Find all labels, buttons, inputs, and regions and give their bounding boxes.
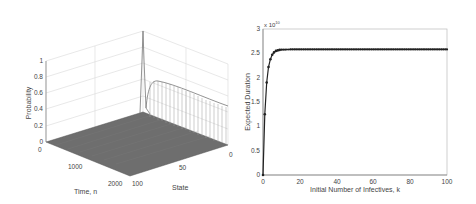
- z-tick-labels: 1 0.8 0.6 0.4 0.2 0: [34, 57, 43, 145]
- data-marker: [365, 48, 367, 50]
- data-marker: [323, 48, 325, 50]
- svg-text:1: 1: [39, 57, 43, 64]
- svg-text:2: 2: [256, 74, 260, 81]
- svg-text:20: 20: [296, 178, 304, 185]
- y-tick-labels: 0 0.5 1 1.5 2 2.5 3: [251, 25, 260, 178]
- svg-text:1.5: 1.5: [251, 98, 260, 105]
- svg-text:100: 100: [442, 178, 453, 185]
- data-marker: [328, 48, 330, 50]
- x-axis-label: Initial Number of Infectives, k: [310, 186, 400, 193]
- y-axis-label: Expected Duration: [244, 73, 252, 131]
- svg-text:0.5: 0.5: [251, 147, 260, 154]
- data-marker: [265, 81, 268, 84]
- data-marker: [442, 48, 444, 50]
- plot-area: [263, 29, 447, 175]
- data-marker: [411, 48, 413, 50]
- line-plot-panel: 0 0.5 1 1.5 2 2.5 3 x 1010 0 20 40 60 80…: [240, 0, 476, 204]
- svg-text:1: 1: [256, 122, 260, 129]
- surface-plot: 1 0.8 0.6 0.4 0.2 0 Probability 0 1000 2…: [0, 0, 240, 204]
- svg-text:60: 60: [369, 178, 377, 185]
- data-marker: [264, 113, 267, 116]
- line-plot: 0 0.5 1 1.5 2 2.5 3 x 1010 0 20 40 60 80…: [240, 0, 476, 204]
- data-marker: [267, 66, 270, 69]
- data-marker: [429, 48, 431, 50]
- data-marker: [319, 48, 321, 50]
- svg-text:3: 3: [256, 25, 260, 32]
- data-marker: [271, 54, 274, 57]
- svg-text:0: 0: [39, 138, 43, 145]
- data-marker: [332, 48, 334, 50]
- data-marker: [369, 48, 371, 50]
- data-marker: [387, 48, 389, 50]
- data-marker: [433, 48, 435, 50]
- svg-text:0: 0: [261, 178, 265, 185]
- data-marker: [420, 48, 422, 50]
- state-axis-label: State: [172, 184, 188, 191]
- svg-text:0.8: 0.8: [34, 73, 43, 80]
- svg-text:0: 0: [256, 171, 260, 178]
- svg-text:80: 80: [406, 178, 414, 185]
- data-marker: [359, 48, 361, 50]
- data-marker: [295, 48, 297, 50]
- data-marker: [374, 48, 376, 50]
- data-marker: [341, 48, 343, 50]
- data-marker: [439, 48, 441, 50]
- data-marker: [313, 48, 315, 50]
- data-marker: [269, 58, 272, 61]
- svg-text:0: 0: [38, 146, 42, 153]
- data-marker: [301, 48, 303, 50]
- y-multiplier: x 1010: [264, 20, 281, 28]
- data-marker: [405, 48, 407, 50]
- data-marker: [393, 48, 395, 50]
- data-marker: [262, 174, 265, 177]
- svg-text:50: 50: [179, 164, 187, 171]
- data-marker: [337, 48, 339, 50]
- initial-spike: [140, 31, 150, 114]
- svg-text:0.6: 0.6: [34, 89, 43, 96]
- data-marker: [282, 49, 284, 51]
- svg-text:0.2: 0.2: [34, 122, 43, 129]
- data-marker: [347, 48, 349, 50]
- svg-text:2000: 2000: [108, 180, 123, 187]
- data-marker: [291, 48, 293, 50]
- svg-text:0.4: 0.4: [34, 105, 43, 112]
- svg-text:40: 40: [333, 178, 341, 185]
- svg-text:100: 100: [132, 180, 143, 187]
- data-marker: [286, 48, 288, 50]
- data-marker: [402, 48, 404, 50]
- data-marker: [350, 48, 352, 50]
- svg-text:0: 0: [229, 151, 233, 158]
- x-tick-labels: 0 20 40 60 80 100: [261, 178, 453, 185]
- surface-plot-panel: 1 0.8 0.6 0.4 0.2 0 Probability 0 1000 2…: [0, 0, 240, 204]
- data-marker: [378, 48, 380, 50]
- z-axis-label: Probability: [25, 86, 33, 119]
- svg-text:2.5: 2.5: [251, 49, 260, 56]
- data-marker: [310, 48, 312, 50]
- data-marker: [396, 48, 398, 50]
- data-marker: [446, 48, 448, 50]
- data-marker: [304, 48, 306, 50]
- data-marker: [415, 48, 417, 50]
- time-axis-label: Time, n: [74, 188, 97, 195]
- data-marker: [356, 48, 358, 50]
- data-marker: [424, 48, 426, 50]
- svg-text:1000: 1000: [68, 163, 83, 170]
- data-marker: [383, 48, 385, 50]
